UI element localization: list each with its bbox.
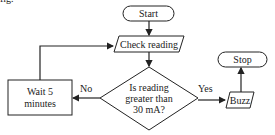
start-label: Start	[123, 8, 174, 19]
no-label: No	[80, 83, 92, 94]
decision-line-3: 30 mA?	[110, 104, 188, 115]
caption-fragment: fig.	[0, 0, 14, 4]
yes-label: Yes	[198, 83, 213, 94]
check-reading-label: Check reading	[114, 39, 184, 50]
stop-label: Stop	[218, 54, 267, 65]
buzz-label: Buzz	[226, 95, 254, 106]
wait-line-2: minutes	[8, 98, 72, 109]
decision-line-2: greater than	[110, 93, 188, 104]
arrow-loop-to-check	[40, 46, 113, 80]
decision-line-1: Is reading	[110, 82, 188, 93]
wait-line-1: Wait 5	[8, 86, 72, 97]
